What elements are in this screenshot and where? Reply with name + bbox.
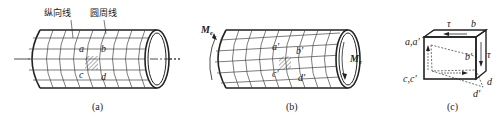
panel-b-cylinder: [210, 30, 360, 88]
point-b-top: b: [471, 18, 476, 29]
torsion-figure: 纵向线 圆周线 a b c d (a): [0, 0, 504, 121]
caption-c: (c): [447, 101, 458, 113]
point-d-prime: d′: [298, 72, 306, 83]
point-b: b: [101, 43, 106, 54]
caption-a: (a): [92, 101, 103, 113]
panel-c-element: [424, 30, 486, 87]
panel-a-cylinder: [14, 20, 180, 88]
shear-stress-top-label: τ: [447, 18, 451, 29]
point-c-c-prime: c,c′: [403, 73, 417, 84]
caption-b: (b): [286, 101, 298, 113]
point-d-right: d: [487, 76, 493, 87]
point-c-prime: c′: [272, 68, 279, 79]
point-a: a: [79, 43, 84, 54]
label-longitudinal-line: 纵向线: [44, 7, 71, 18]
point-c: c: [79, 69, 84, 80]
label-circumferential-line: 圆周线: [90, 7, 117, 18]
point-a-a-prime: a,a′: [405, 36, 421, 47]
shear-stress-right-label: τ: [487, 49, 491, 60]
point-a-prime: a′: [272, 41, 280, 52]
point-b-prime-right: b′: [465, 51, 473, 62]
point-b-prime: b′: [296, 45, 304, 56]
point-d-prime-shifted: d′: [473, 88, 481, 99]
torque-left-label: Me: [200, 24, 213, 36]
